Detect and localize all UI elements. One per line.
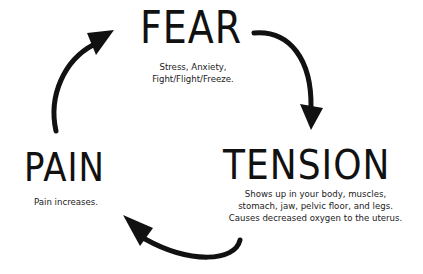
fear-desc-line: Stress, Anxiety, [138,61,248,73]
tension-desc-line: Causes decreased oxygen to the uterus. [208,212,423,224]
arrow-fear-to-tension-icon [254,33,323,130]
tension-title: TENSION [223,144,390,185]
tension-description: Shows up in your body, muscles, stomach,… [208,188,423,224]
pain-description: Pain increases. [26,196,106,208]
tension-desc-line: stomach, jaw, pelvic floor, and legs. [208,200,423,212]
pain-title: PAIN [24,148,105,187]
fear-title: FEAR [140,6,242,50]
arrow-pain-to-fear-icon [54,30,114,131]
fear-desc-line: Fight/Flight/Freeze. [138,73,248,85]
pain-desc-line: Pain increases. [26,196,106,208]
tension-desc-line: Shows up in your body, muscles, [208,188,423,200]
fear-description: Stress, Anxiety, Fight/Flight/Freeze. [138,61,248,85]
